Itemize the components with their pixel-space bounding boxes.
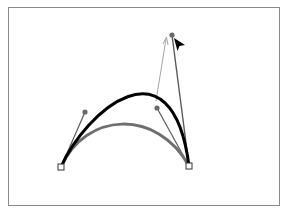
bezier-diagram <box>0 0 293 211</box>
original-right-handle-point[interactable] <box>154 105 159 110</box>
arrow-pointer-icon <box>174 38 185 51</box>
anchor-point-left[interactable] <box>58 164 64 170</box>
drag-direction-arrow <box>156 39 166 101</box>
left-handle-point[interactable] <box>82 109 87 114</box>
dragged-handle-point[interactable] <box>169 32 174 37</box>
anchor-point-right[interactable] <box>186 163 192 169</box>
